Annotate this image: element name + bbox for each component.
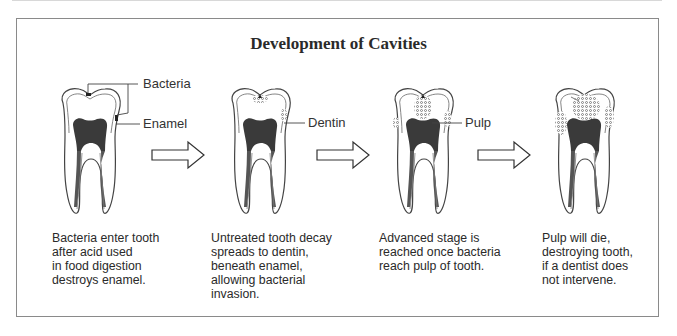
label-dentin: Dentin [308, 115, 346, 130]
caption-stage-3: Advanced stage is reached once bacteria … [379, 231, 501, 273]
tooth-stage-3 [393, 89, 453, 214]
arrow-icon [478, 142, 530, 168]
tooth-stage-4 [555, 89, 614, 214]
label-enamel: Enamel [143, 116, 187, 131]
label-bacteria: Bacteria [143, 76, 191, 91]
caption-stage-2: Untreated tooth decay spreads to dentin,… [211, 231, 332, 301]
tooth-stage-2 [232, 89, 290, 214]
tooth-stage-1 [62, 89, 120, 214]
arrow-icon [152, 142, 204, 168]
label-pulp: Pulp [465, 115, 491, 130]
caption-stage-1: Bacteria enter tooth after acid used in … [52, 231, 159, 287]
arrow-icon [317, 142, 369, 168]
caption-stage-4: Pulp will die, destroying tooth, if a de… [542, 231, 633, 287]
